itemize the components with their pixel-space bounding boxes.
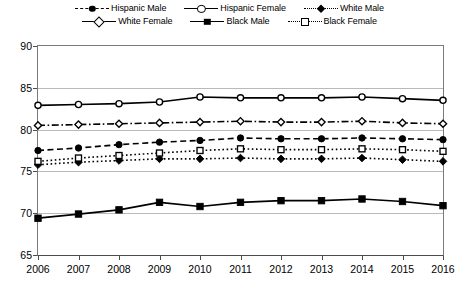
x-axis-tick-mark — [443, 256, 444, 260]
x-axis: 2006200720082009201020112012201320142015… — [0, 0, 459, 282]
x-axis-tick-label: 2007 — [59, 264, 99, 275]
x-axis-tick-mark — [362, 256, 363, 260]
x-axis-tick-mark — [200, 256, 201, 260]
x-axis-tick-mark — [38, 256, 39, 260]
x-axis-tick-label: 2006 — [18, 264, 58, 275]
x-axis-tick-mark — [160, 256, 161, 260]
x-axis-tick-mark — [241, 256, 242, 260]
x-axis-tick-label: 2015 — [383, 264, 423, 275]
x-axis-tick-mark — [403, 256, 404, 260]
x-axis-tick-label: 2009 — [140, 264, 180, 275]
x-axis-tick-label: 2011 — [221, 264, 261, 275]
x-axis-tick-label: 2014 — [342, 264, 382, 275]
x-axis-tick-label: 2008 — [99, 264, 139, 275]
x-axis-tick-label: 2016 — [423, 264, 459, 275]
x-axis-tick-label: 2010 — [180, 264, 220, 275]
x-axis-tick-mark — [119, 256, 120, 260]
x-axis-tick-label: 2012 — [261, 264, 301, 275]
x-axis-tick-mark — [281, 256, 282, 260]
x-axis-tick-label: 2013 — [302, 264, 342, 275]
x-axis-tick-mark — [79, 256, 80, 260]
x-axis-tick-mark — [322, 256, 323, 260]
chart-figure: Hispanic MaleHispanic FemaleWhite Male W… — [0, 0, 459, 282]
